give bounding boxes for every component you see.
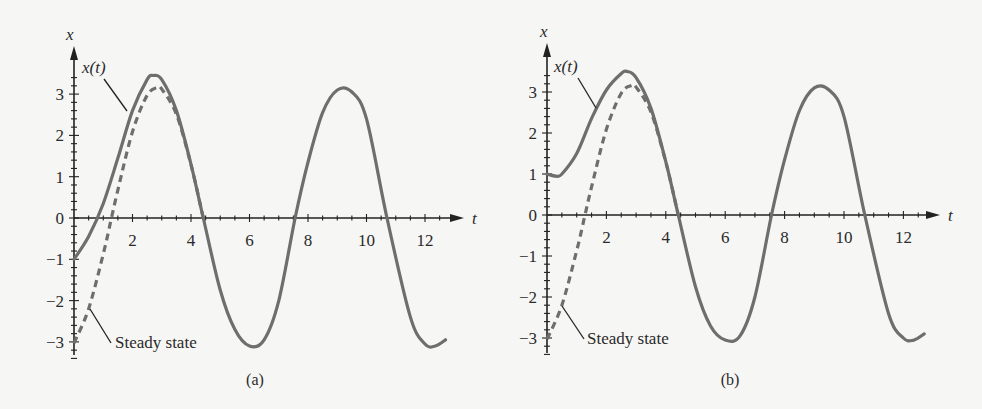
xt-leader-line-a xyxy=(104,79,127,111)
y-tick-label: 1 xyxy=(56,168,65,187)
y-tick-label: 2 xyxy=(56,126,65,145)
y-tick-label: −1 xyxy=(46,250,64,269)
xt-annotation-b: x(t) xyxy=(553,57,578,76)
panel-a: −3−2−1012324681012 x t x(t) Steady state… xyxy=(46,25,478,389)
y-axis-label-b: x xyxy=(539,22,548,41)
xt-annotation-a: x(t) xyxy=(81,58,106,77)
y-axis-arrow-icon xyxy=(543,43,551,57)
x-tick-label: 10 xyxy=(836,228,853,247)
axes-b: −3−2−1012324681012 xyxy=(519,43,940,354)
y-axis-arrow-icon xyxy=(70,46,78,60)
caption-b: (b) xyxy=(721,371,740,389)
steady-state-annotation-a: Steady state xyxy=(115,333,197,352)
y-tick-label: 2 xyxy=(529,124,538,143)
xt-leader-line-b xyxy=(578,78,596,108)
y-axis-label-a: x xyxy=(65,25,74,44)
x-tick-label: 12 xyxy=(895,228,912,247)
y-tick-label: −3 xyxy=(519,329,537,348)
y-tick-label: 0 xyxy=(529,206,538,225)
panel-b: −3−2−1012324681012 x t x(t) Steady state… xyxy=(519,22,954,389)
y-tick-label: −2 xyxy=(519,288,537,307)
x-tick-label: 4 xyxy=(187,231,196,250)
xt-curve-b xyxy=(547,71,924,341)
x-axis-arrow-icon xyxy=(450,214,464,222)
x-tick-label: 6 xyxy=(245,231,254,250)
xt-curve-a xyxy=(74,75,446,347)
y-tick-label: −1 xyxy=(519,247,537,266)
y-tick-label: 3 xyxy=(56,85,65,104)
x-tick-label: 12 xyxy=(417,231,434,250)
x-tick-label: 10 xyxy=(358,231,375,250)
caption-a: (a) xyxy=(246,371,264,389)
steady-state-leader-line-a xyxy=(90,309,111,343)
x-tick-label: 6 xyxy=(721,228,730,247)
y-tick-label: 0 xyxy=(56,209,65,228)
steady-state-leader-line-b xyxy=(562,306,584,339)
x-axis-label-a: t xyxy=(472,209,478,228)
axes-a: −3−2−1012324681012 xyxy=(46,46,464,358)
chart-figure: −3−2−1012324681012 x t x(t) Steady state… xyxy=(0,0,982,409)
x-tick-label: 8 xyxy=(304,231,313,250)
y-tick-label: 1 xyxy=(529,165,538,184)
steady-state-annotation-b: Steady state xyxy=(587,329,669,348)
x-tick-label: 2 xyxy=(602,228,611,247)
steady-state-curve-b xyxy=(547,84,678,339)
y-tick-label: −2 xyxy=(46,292,64,311)
x-tick-label: 2 xyxy=(128,231,137,250)
x-axis-label-b: t xyxy=(948,206,954,225)
y-tick-label: 3 xyxy=(529,83,538,102)
steady-state-curve-a xyxy=(74,86,203,343)
y-tick-label: −3 xyxy=(46,333,64,352)
x-tick-label: 4 xyxy=(662,228,671,247)
x-tick-label: 8 xyxy=(780,228,789,247)
x-axis-arrow-icon xyxy=(926,211,940,219)
